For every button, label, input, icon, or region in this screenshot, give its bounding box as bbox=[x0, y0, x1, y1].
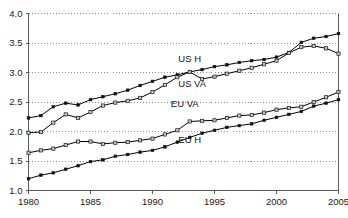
y-axis-tick-labels: 1.01.52.02.53.03.54.0 bbox=[9, 8, 22, 196]
data-point bbox=[337, 90, 340, 93]
data-point bbox=[226, 126, 229, 129]
data-point bbox=[226, 64, 229, 67]
data-point bbox=[114, 155, 117, 158]
data-point bbox=[337, 52, 340, 55]
series-label-us-h: US H bbox=[178, 53, 201, 64]
x-tick-label: 1990 bbox=[142, 196, 163, 207]
data-point bbox=[151, 149, 154, 152]
data-point bbox=[52, 147, 55, 150]
y-tick-label: 1.5 bbox=[9, 155, 22, 166]
x-tick-label: 1985 bbox=[80, 196, 101, 207]
data-point bbox=[238, 114, 241, 117]
data-point bbox=[337, 98, 340, 101]
data-point bbox=[213, 119, 216, 122]
data-point bbox=[114, 141, 117, 144]
data-point bbox=[101, 142, 104, 145]
data-point bbox=[188, 120, 191, 123]
data-point bbox=[114, 101, 117, 104]
data-point bbox=[275, 108, 278, 111]
y-tick-label: 2.0 bbox=[9, 126, 22, 137]
data-point bbox=[64, 113, 67, 116]
data-point bbox=[52, 172, 55, 175]
x-tick-label: 2005 bbox=[328, 196, 348, 207]
data-point bbox=[89, 160, 92, 163]
data-point bbox=[39, 130, 42, 133]
data-point bbox=[77, 140, 80, 143]
data-point bbox=[263, 111, 266, 114]
data-point bbox=[288, 113, 291, 116]
data-point bbox=[325, 102, 328, 105]
y-tick-label: 1.0 bbox=[9, 185, 22, 196]
data-point bbox=[64, 102, 67, 105]
data-point bbox=[163, 83, 166, 86]
data-point bbox=[39, 149, 42, 152]
y-tick-label: 3.0 bbox=[9, 67, 22, 78]
data-point bbox=[250, 66, 253, 69]
data-point bbox=[250, 59, 253, 62]
data-point bbox=[126, 153, 129, 156]
data-point bbox=[337, 32, 340, 35]
data-point bbox=[126, 89, 129, 92]
data-point bbox=[139, 151, 142, 154]
data-point bbox=[325, 35, 328, 38]
data-point bbox=[77, 164, 80, 167]
data-point bbox=[201, 119, 204, 122]
data-point bbox=[27, 151, 30, 154]
y-tick-label: 2.5 bbox=[9, 96, 22, 107]
data-point bbox=[213, 75, 216, 78]
data-point bbox=[250, 123, 253, 126]
data-point bbox=[126, 99, 129, 102]
data-point bbox=[101, 104, 104, 107]
data-point bbox=[139, 96, 142, 99]
data-point bbox=[89, 98, 92, 101]
data-point bbox=[287, 106, 290, 109]
data-point bbox=[300, 46, 303, 49]
data-point bbox=[275, 116, 278, 119]
line-chart: 1.01.52.02.53.03.54.0 198019851990199520… bbox=[0, 0, 348, 218]
data-point bbox=[188, 70, 191, 73]
data-point bbox=[201, 132, 204, 135]
data-point bbox=[64, 168, 67, 171]
data-point bbox=[102, 159, 105, 162]
data-point bbox=[225, 116, 228, 119]
data-point bbox=[300, 41, 303, 44]
data-point bbox=[89, 140, 92, 143]
data-point bbox=[27, 177, 30, 180]
data-point bbox=[40, 114, 43, 117]
data-point bbox=[312, 44, 315, 47]
data-point bbox=[263, 119, 266, 122]
data-point bbox=[126, 141, 129, 144]
data-point bbox=[151, 80, 154, 83]
x-tick-label: 1995 bbox=[204, 196, 225, 207]
data-point bbox=[164, 76, 167, 79]
data-point bbox=[52, 105, 55, 108]
series-label-eu-h: EU H bbox=[178, 134, 201, 145]
y-tick-label: 3.5 bbox=[9, 37, 22, 48]
data-point bbox=[40, 174, 43, 177]
data-point bbox=[77, 116, 80, 119]
series-label-us-va: US VA bbox=[178, 78, 206, 89]
data-point bbox=[64, 143, 67, 146]
data-point bbox=[238, 124, 241, 127]
series-label-eu-va: EU VA bbox=[171, 98, 199, 109]
chart-canvas: 1.01.52.02.53.03.54.0 198019851990199520… bbox=[0, 0, 348, 218]
data-point bbox=[163, 133, 166, 136]
data-point bbox=[325, 96, 328, 99]
data-point bbox=[250, 113, 253, 116]
data-point bbox=[176, 129, 179, 132]
data-point bbox=[151, 90, 154, 93]
data-point bbox=[275, 59, 278, 62]
x-axis-tick-labels: 198019851990199520002005 bbox=[18, 196, 348, 207]
data-point bbox=[77, 104, 80, 107]
data-point bbox=[312, 100, 315, 103]
data-point bbox=[238, 69, 241, 72]
x-tick-label: 1980 bbox=[18, 196, 39, 207]
data-point bbox=[27, 117, 30, 120]
data-point bbox=[213, 129, 216, 132]
data-point bbox=[275, 56, 278, 59]
data-point bbox=[225, 72, 228, 75]
data-point bbox=[300, 110, 303, 113]
data-point bbox=[102, 95, 105, 98]
data-point bbox=[114, 92, 117, 95]
data-point bbox=[52, 121, 55, 124]
